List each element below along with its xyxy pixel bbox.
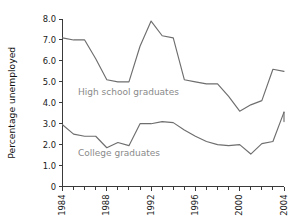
y-tick-label: 6.0 <box>43 56 56 66</box>
y-tick-label: 2.0 <box>43 140 56 150</box>
y-tick-label: 3.0 <box>43 119 56 129</box>
x-tick-label: 2004 <box>279 195 289 216</box>
chart-axes <box>63 19 285 187</box>
y-tick-label: 5.0 <box>43 77 56 87</box>
y-tick-label: 7.0 <box>43 35 56 45</box>
x-tick-label: 1988 <box>101 195 111 216</box>
chart-figure: 01.02.03.04.05.06.07.08.0 19841988199219… <box>0 0 296 221</box>
series-label-high-school: High school graduates <box>78 87 179 97</box>
x-axis-tick-labels: 198419881992199620002004 <box>57 195 289 216</box>
y-axis-title: Percentage unemployed <box>6 47 17 159</box>
axis-spine <box>63 19 285 187</box>
y-tick-label: 4.0 <box>43 98 56 108</box>
y-axis-title-text: Percentage unemployed <box>6 47 17 159</box>
series-line-high-school <box>63 21 285 111</box>
x-tick-label: 1984 <box>57 195 67 216</box>
x-tick-label: 1996 <box>190 195 200 216</box>
y-tick-label: 8.0 <box>43 14 56 24</box>
x-tick-label: 2000 <box>234 195 244 216</box>
series-label-college: College graduates <box>78 148 160 158</box>
y-tick-label: 1.0 <box>43 161 56 171</box>
x-tick-label: 1992 <box>146 195 156 216</box>
y-tick-label: 0 <box>51 182 56 192</box>
series-annotations: High school graduatesCollege graduates <box>78 87 179 158</box>
line-chart: 01.02.03.04.05.06.07.08.0 19841988199219… <box>0 0 296 221</box>
y-axis-tick-labels: 01.02.03.04.05.06.07.08.0 <box>43 14 56 192</box>
